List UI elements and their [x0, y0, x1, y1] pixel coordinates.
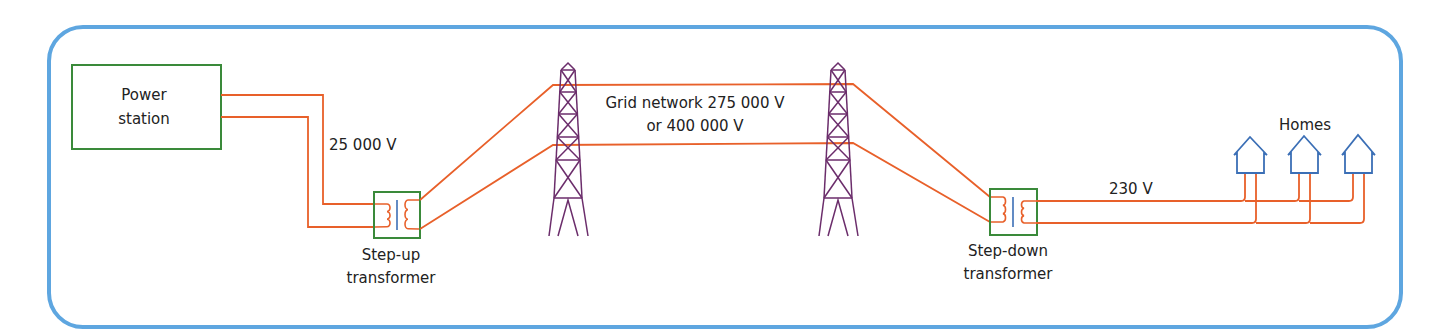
home-voltage-label: 230 V — [1109, 180, 1153, 198]
pylon-1 — [549, 63, 588, 236]
step-down-label-2: transformer — [964, 265, 1054, 283]
step-up-label-2: transformer — [347, 269, 437, 287]
house-2 — [1288, 136, 1321, 173]
step-down-label-1: Step-down — [968, 242, 1048, 260]
power-station-label-2: station — [118, 110, 170, 128]
wires-generation — [221, 95, 387, 227]
generation-voltage-label: 25 000 V — [329, 136, 397, 154]
step-up-transformer — [374, 192, 420, 238]
grid-network-label-1: Grid network 275 000 V — [606, 94, 786, 112]
pylon-2 — [819, 63, 858, 236]
grid-network-label-2: or 400 000 V — [646, 117, 744, 135]
step-down-transformer — [990, 189, 1037, 235]
power-station-label-1: Power — [121, 86, 167, 104]
house-3 — [1342, 135, 1375, 173]
homes-label: Homes — [1279, 116, 1331, 134]
house-1 — [1234, 137, 1267, 173]
power-station: Power station — [72, 65, 221, 149]
diagram-frame — [49, 27, 1401, 327]
wires-distribution — [1036, 173, 1364, 223]
power-distribution-diagram: Power station 25 000 V Step-up transform… — [0, 0, 1446, 334]
step-up-label-1: Step-up — [362, 246, 421, 264]
